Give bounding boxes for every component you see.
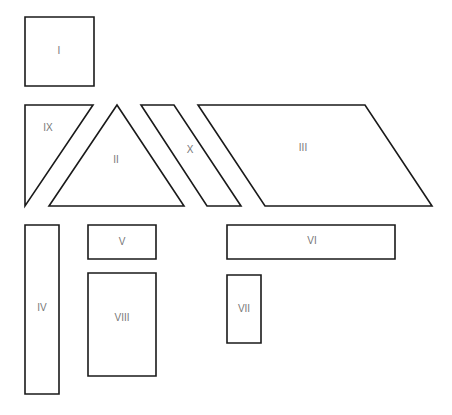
shape-iv: IV bbox=[25, 225, 59, 394]
shape-vi: VI bbox=[227, 225, 395, 259]
shape-label: I bbox=[58, 45, 61, 56]
shape-label: III bbox=[299, 142, 307, 153]
rectangle-outline bbox=[88, 273, 156, 376]
shape-label: VIII bbox=[114, 312, 129, 323]
shape-viii: VIII bbox=[88, 273, 156, 376]
shape-i: I bbox=[25, 17, 94, 86]
shape-label: X bbox=[187, 144, 194, 155]
shape-v: V bbox=[88, 225, 156, 259]
shape-label: VI bbox=[307, 235, 316, 246]
shape-vii: VII bbox=[227, 275, 261, 343]
shape-label: IV bbox=[37, 302, 47, 313]
parallelogram-outline bbox=[198, 105, 432, 206]
shape-label: VII bbox=[238, 303, 250, 314]
diagram-canvas: IIXIIXIIIIVVVIIIVIVII bbox=[0, 0, 452, 415]
shape-label: II bbox=[113, 154, 119, 165]
shape-iii: III bbox=[198, 105, 432, 206]
shape-label: IX bbox=[43, 122, 53, 133]
shape-label: V bbox=[119, 236, 126, 247]
